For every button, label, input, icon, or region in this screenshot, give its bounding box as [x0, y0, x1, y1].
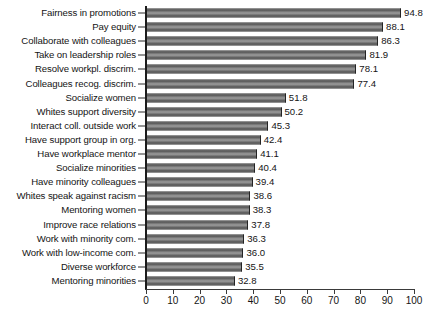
category-label: Mentoring women [61, 205, 136, 215]
bar-value-label: 51.8 [286, 93, 308, 103]
bar [147, 107, 282, 116]
bar-row: Whites support diversity50.2 [0, 105, 433, 119]
category-label: Diverse workforce [61, 262, 136, 272]
bar-row: Socialize minorities40.4 [0, 161, 433, 175]
y-axis-tick [138, 238, 145, 239]
bar [147, 178, 253, 187]
bar-value-label: 41.1 [257, 149, 279, 159]
bar-value-label: 37.8 [248, 220, 270, 230]
x-axis-tick [387, 289, 388, 294]
bar-row: Take on leadership roles81.9 [0, 48, 433, 62]
bar-row: Work with minority com.36.3 [0, 232, 433, 246]
bar-value-label: 50.2 [282, 107, 304, 117]
bar-value-label: 94.8 [401, 8, 423, 18]
x-axis-tick [200, 289, 201, 294]
x-axis-tick [280, 289, 281, 294]
bar-value-label: 40.4 [255, 163, 277, 173]
x-axis-tick-label: 70 [328, 295, 339, 307]
category-label: Socialize women [66, 93, 137, 103]
x-axis-tick [414, 289, 415, 294]
bar-row: Have workplace mentor41.1 [0, 147, 433, 161]
category-label: Have minority colleagues [31, 177, 136, 187]
y-axis-tick [138, 266, 145, 267]
x-axis-tick-label: 50 [274, 295, 285, 307]
y-axis-tick [138, 97, 145, 98]
category-label: Have workplace mentor [37, 149, 136, 159]
bar [147, 79, 354, 88]
category-label: Whites support diversity [37, 107, 136, 117]
bar-row: Collaborate with colleagues86.3 [0, 34, 433, 48]
bar-row: Mentoring minorities32.8 [0, 274, 433, 288]
category-label: Have support group in org. [25, 135, 136, 145]
bar-value-label: 81.9 [366, 50, 388, 60]
x-axis-tick-label: 100 [406, 295, 423, 307]
bar [147, 51, 366, 60]
y-axis-tick [138, 154, 145, 155]
bar-chart: Fairness in promotions94.8Pay equity88.1… [0, 0, 433, 318]
x-axis-tick [360, 289, 361, 294]
y-axis-tick [138, 27, 145, 28]
bar-value-label: 36.3 [244, 234, 266, 244]
x-axis-tick-label: 20 [194, 295, 205, 307]
x-axis-tick [226, 289, 227, 294]
y-axis-tick [138, 13, 145, 14]
bar-value-label: 35.5 [242, 262, 264, 272]
y-axis-tick [138, 125, 145, 126]
category-label: Take on leadership roles [34, 50, 136, 60]
bar [147, 276, 235, 285]
bar-row: Pay equity88.1 [0, 20, 433, 34]
bar-row: Whites speak against racism38.6 [0, 189, 433, 203]
x-axis-tick-label: 10 [167, 295, 178, 307]
bar-row: Diverse workforce35.5 [0, 260, 433, 274]
category-label: Improve race relations [43, 220, 136, 230]
bar-value-label: 32.8 [235, 276, 257, 286]
bar-row: Colleagues recog. discrim.77.4 [0, 77, 433, 91]
x-axis-tick [146, 289, 147, 294]
y-axis-tick [138, 224, 145, 225]
bar-value-label: 77.4 [354, 79, 376, 89]
bar [147, 9, 401, 18]
bar-row: Resolve workpl. discrim.78.1 [0, 62, 433, 76]
bar-rows: Fairness in promotions94.8Pay equity88.1… [0, 0, 433, 288]
bar-row: Have support group in org.42.4 [0, 133, 433, 147]
x-axis-tick-label: 0 [143, 295, 149, 307]
x-axis-tick [334, 289, 335, 294]
bar-value-label: 36.0 [243, 248, 265, 258]
y-axis-tick [138, 252, 145, 253]
bar [147, 192, 250, 201]
category-label: Colleagues recog. discrim. [26, 79, 136, 89]
bar-value-label: 42.4 [261, 135, 283, 145]
y-axis-tick [138, 55, 145, 56]
bar [147, 121, 268, 130]
bar [147, 234, 244, 243]
y-axis-tick [138, 41, 145, 42]
x-axis-tick [173, 289, 174, 294]
bar [147, 37, 378, 46]
y-axis-tick [138, 83, 145, 84]
bar-row: Interact coll. outside work45.3 [0, 119, 433, 133]
bar [147, 164, 255, 173]
bar [147, 206, 250, 215]
bar [147, 65, 356, 74]
bar-row: Fairness in promotions94.8 [0, 6, 433, 20]
y-axis-tick [138, 168, 145, 169]
bar-value-label: 45.3 [268, 121, 290, 131]
category-label: Fairness in promotions [41, 8, 136, 18]
y-axis-tick [138, 280, 145, 281]
bar [147, 220, 248, 229]
y-axis-tick [138, 69, 145, 70]
category-label: Resolve workpl. discrim. [35, 64, 136, 74]
bar-value-label: 39.4 [253, 177, 275, 187]
bar-row: Mentoring women38.3 [0, 203, 433, 217]
y-axis-tick [138, 182, 145, 183]
y-axis-tick [138, 111, 145, 112]
x-axis-tick [307, 289, 308, 294]
category-label: Mentoring minorities [52, 276, 136, 286]
y-axis-tick [138, 139, 145, 140]
bar [147, 262, 242, 271]
bar-value-label: 38.3 [250, 205, 272, 215]
bar-value-label: 38.6 [250, 191, 272, 201]
bar-value-label: 78.1 [356, 64, 378, 74]
bar-value-label: 86.3 [378, 36, 400, 46]
category-label: Work with low-income com. [22, 248, 136, 258]
